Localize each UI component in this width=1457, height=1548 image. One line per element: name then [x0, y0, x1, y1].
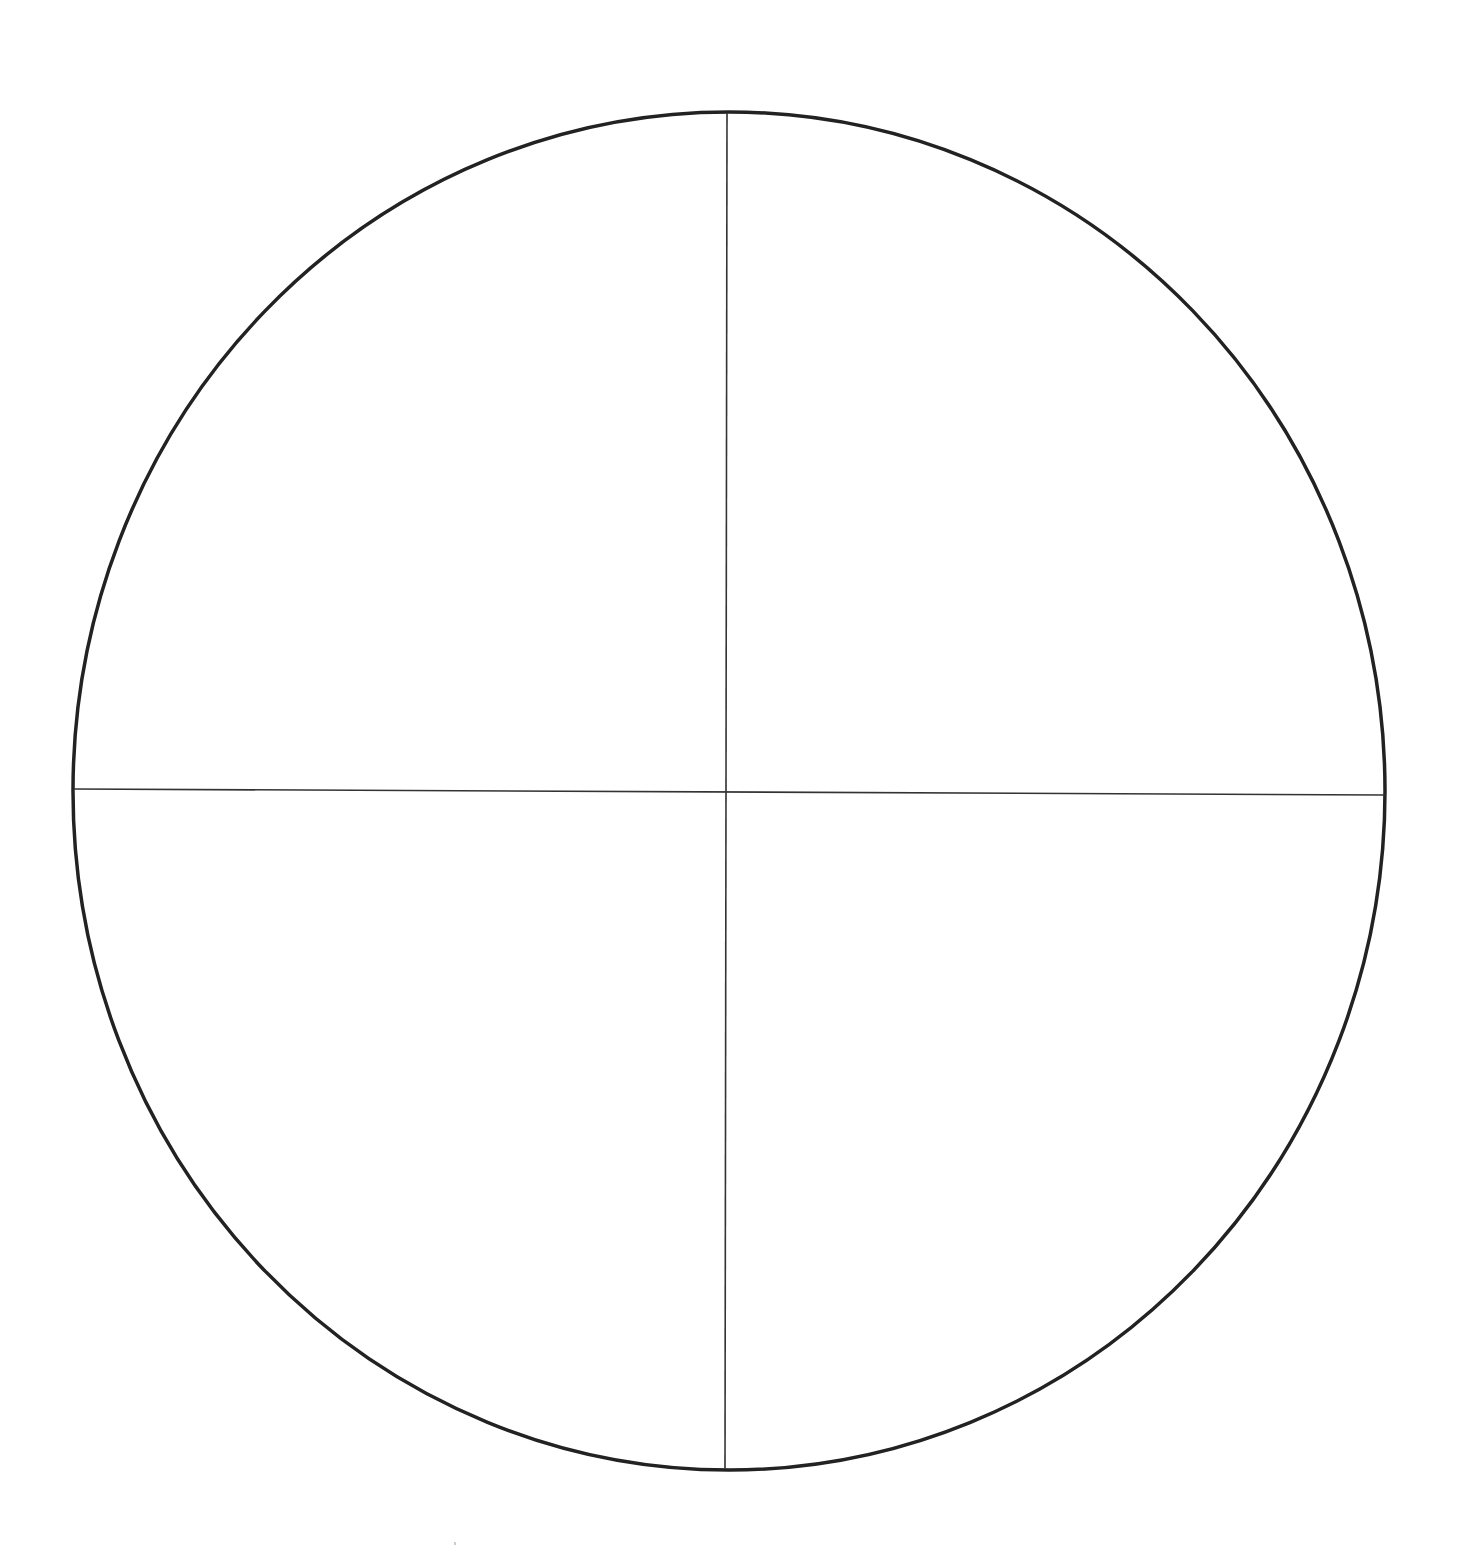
outer-circle — [73, 112, 1385, 1470]
quartered-circle-diagram — [0, 0, 1457, 1548]
vertical-divider-line — [725, 113, 727, 1469]
horizontal-divider-line — [74, 789, 1385, 795]
